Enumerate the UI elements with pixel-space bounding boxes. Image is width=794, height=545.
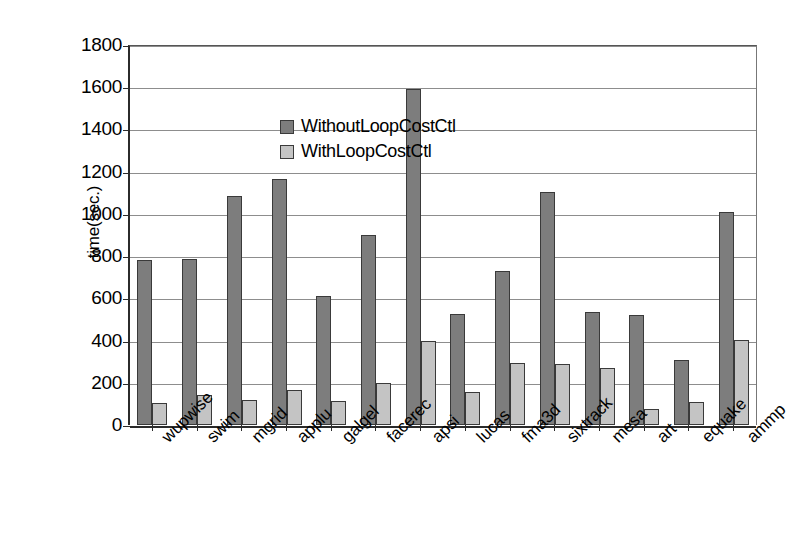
bar-applu-without (272, 179, 287, 425)
legend-swatch-icon (280, 120, 294, 134)
y-tick-label: 200 (66, 373, 122, 392)
y-axis-tick-mark (123, 215, 130, 216)
bar-group (667, 46, 712, 425)
bar-lucas-without (450, 314, 465, 425)
bars-layer (130, 46, 756, 425)
bar-wupwise-with (152, 403, 167, 425)
bar-group (443, 46, 488, 425)
y-axis-tick-mark (123, 384, 130, 385)
bar-group (309, 46, 354, 425)
bar-group (175, 46, 220, 425)
legend-item: WithoutLoopCostCtl (280, 114, 456, 139)
bar-mgrid-with (242, 400, 257, 425)
y-tick-label: 0 (66, 415, 122, 434)
y-axis-tick-mark (123, 88, 130, 89)
y-tick-label: 1000 (66, 204, 122, 223)
bar-equake-with (689, 402, 704, 425)
y-axis-tick-mark (123, 257, 130, 258)
bar-group (130, 46, 175, 425)
y-axis-tick-labels: 180016001400120010008006004002000 (60, 0, 122, 545)
bar-group (488, 46, 533, 425)
bar-fma3d-with (510, 363, 525, 425)
bar-group (398, 46, 443, 425)
y-axis-tick-mark (123, 299, 130, 300)
bar-group (354, 46, 399, 425)
legend-item: WithLoopCostCtl (280, 139, 456, 164)
legend-label: WithoutLoopCostCtl (301, 114, 456, 139)
bar-chart: time(sec.) 18001600140012001000800600400… (0, 0, 794, 545)
bar-equake-without (674, 360, 689, 425)
y-axis-tick-mark (123, 173, 130, 174)
bar-wupwise-without (137, 260, 152, 425)
plot-area: WithoutLoopCostCtlWithLoopCostCtl (128, 45, 757, 425)
y-axis-tick-mark (123, 342, 130, 343)
bar-group (264, 46, 309, 425)
bar-group (532, 46, 577, 425)
legend-swatch-icon (280, 145, 294, 159)
bar-facerec-without (361, 235, 376, 425)
y-tick-label: 1200 (66, 162, 122, 181)
bar-lucas-with (465, 392, 480, 425)
y-tick-label: 400 (66, 331, 122, 350)
bar-group (577, 46, 622, 425)
bar-group (622, 46, 667, 425)
bar-sixtrack-without (540, 192, 555, 425)
bar-galgel-with (331, 401, 346, 425)
chart-legend: WithoutLoopCostCtlWithLoopCostCtl (280, 114, 456, 164)
bar-fma3d-without (495, 271, 510, 425)
y-tick-label: 1400 (66, 119, 122, 138)
bar-group (219, 46, 264, 425)
bar-mgrid-without (227, 196, 242, 425)
y-tick-label: 1600 (66, 77, 122, 96)
legend-label: WithLoopCostCtl (301, 139, 432, 164)
y-axis-tick-mark (123, 130, 130, 131)
y-tick-label: 800 (66, 246, 122, 265)
bar-group (711, 46, 756, 425)
bar-ammp-without (719, 212, 734, 425)
x-axis-category-labels: wupwiseswimmgridapplugalgelfacerecapsilu… (128, 425, 757, 545)
y-tick-label: 600 (66, 288, 122, 307)
y-tick-label: 1800 (66, 35, 122, 54)
y-axis-tick-mark (123, 46, 130, 47)
